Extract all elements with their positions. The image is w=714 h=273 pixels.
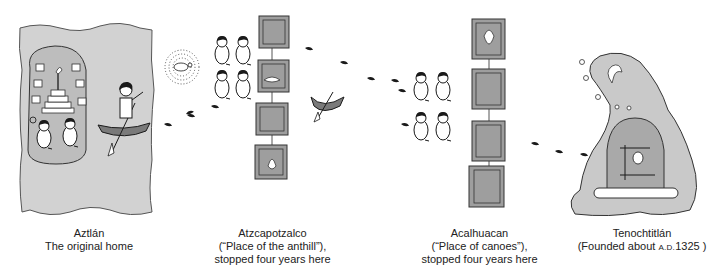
atzcapotzalco-name: Atzcapotzalco (205, 227, 340, 240)
caption-aztlan: Aztlán The original home (20, 227, 158, 253)
acalhuacan-duration: stopped four years here (412, 253, 547, 266)
atzcapotzalco-meaning: (“Place of the anthill”), (205, 240, 340, 253)
tenochtitlan-hill-illustration (571, 53, 697, 216)
acalhuacan-year-glyphs (469, 19, 505, 207)
caption-acalhuacan: Acalhuacan (“Place of canoes”), stopped … (412, 227, 547, 266)
acalhuacan-meaning: (“Place of canoes”), (412, 240, 547, 253)
dotted-ring-animal-glyph (165, 50, 199, 84)
aztlan-island-illustration (19, 23, 154, 214)
acalhuacan-migrants (414, 72, 451, 141)
founding-prefix: (Founded about (578, 240, 659, 252)
founding-era: A.D. (658, 243, 675, 252)
atzcapotzalco-year-glyphs (255, 16, 289, 179)
tenochtitlan-founding: (Founded about A.D.1325 ) (576, 240, 708, 254)
aztlan-description: The original home (20, 240, 158, 253)
aztlan-name: Aztlán (20, 227, 158, 240)
atzcapotzalco-migrants (215, 36, 251, 99)
founding-year: 1325 ) (675, 240, 706, 252)
acalhuacan-name: Acalhuacan (412, 227, 547, 240)
abandoned-canoe-illustration (311, 92, 344, 122)
tenochtitlan-name: Tenochtitlán (576, 227, 708, 240)
atzcapotzalco-duration: stopped four years here (205, 253, 340, 266)
caption-atzcapotzalco: Atzcapotzalco (“Place of the anthill”), … (205, 227, 340, 266)
caption-tenochtitlan: Tenochtitlán (Founded about A.D.1325 ) (576, 227, 708, 254)
